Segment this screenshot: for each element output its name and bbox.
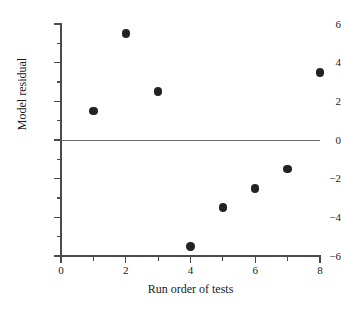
x-axis-tick-minor bbox=[158, 257, 159, 261]
y-axis-tick-major bbox=[54, 178, 60, 179]
x-axis-tick-major bbox=[255, 257, 256, 263]
y-axis-tick-major bbox=[54, 217, 60, 218]
x-axis-tick-minor bbox=[287, 257, 288, 261]
plot-area bbox=[61, 24, 320, 256]
data-point bbox=[122, 29, 130, 37]
x-axis-label: Run order of tests bbox=[61, 283, 320, 295]
x-axis-tick-label: 0 bbox=[46, 265, 76, 276]
y-axis-tick-minor bbox=[57, 120, 61, 121]
x-axis-tick-label: 6 bbox=[240, 265, 270, 276]
x-axis-tick-major bbox=[125, 257, 126, 263]
data-point bbox=[89, 107, 97, 115]
x-axis-tick-label: 8 bbox=[305, 265, 335, 276]
x-axis-tick-minor bbox=[222, 257, 223, 261]
y-axis-tick-major bbox=[54, 101, 60, 102]
y-axis-tick-minor bbox=[57, 236, 61, 237]
x-axis-tick-minor bbox=[93, 257, 94, 261]
data-point bbox=[219, 203, 227, 211]
x-axis-tick-major bbox=[190, 257, 191, 263]
y-axis-tick-minor bbox=[57, 159, 61, 160]
y-axis-tick-major bbox=[54, 255, 60, 256]
x-axis-tick-major bbox=[60, 257, 61, 263]
x-axis-tick-label: 2 bbox=[111, 265, 141, 276]
data-point bbox=[251, 184, 259, 192]
y-axis-tick-major bbox=[54, 23, 60, 24]
y-axis-tick-major bbox=[54, 62, 60, 63]
y-axis-tick-minor bbox=[57, 197, 61, 198]
data-point bbox=[316, 68, 324, 76]
residual-scatter-chart: 6420−2−4−602468 Model residual Run order… bbox=[0, 0, 341, 309]
x-axis-tick-label: 4 bbox=[176, 265, 206, 276]
y-axis-tick-major bbox=[54, 139, 60, 140]
data-point bbox=[283, 165, 291, 173]
y-axis-label: Model residual bbox=[16, 28, 28, 160]
y-axis-tick-minor bbox=[57, 81, 61, 82]
data-point bbox=[154, 87, 162, 95]
y-axis-tick-minor bbox=[57, 43, 61, 44]
data-point bbox=[186, 242, 194, 250]
